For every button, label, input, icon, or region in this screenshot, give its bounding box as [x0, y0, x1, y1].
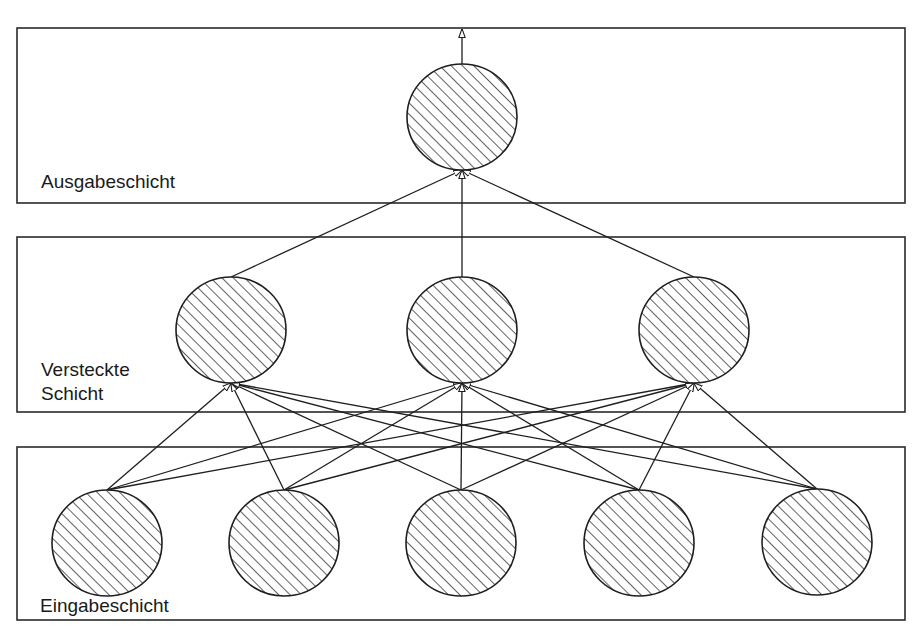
input-neuron-1 — [52, 490, 162, 596]
input-neuron-4 — [584, 490, 694, 596]
connection-arrow — [462, 383, 817, 489]
label-line: Ausgabeschicht — [41, 170, 175, 194]
label-line: Eingabeschicht — [40, 594, 169, 618]
neural-network-diagram — [0, 0, 923, 631]
output-neuron-1 — [407, 64, 517, 170]
input-neuron-2 — [229, 490, 339, 596]
input-neuron-3 — [406, 490, 516, 596]
connection-arrow — [107, 383, 462, 490]
connection-arrow — [694, 383, 817, 489]
neurons — [52, 64, 872, 596]
label-line: Versteckte — [41, 358, 130, 382]
connection-arrow — [231, 383, 284, 490]
hidden-neuron-1 — [176, 277, 286, 383]
input-layer-label: Eingabeschicht — [40, 594, 169, 618]
connection-arrow — [231, 383, 817, 489]
connection-arrow — [231, 170, 462, 277]
input-neuron-5 — [762, 489, 872, 595]
connection-arrow — [461, 383, 462, 490]
hidden-neuron-3 — [639, 277, 749, 383]
hidden-layer-label: VersteckteSchicht — [41, 358, 130, 406]
hidden-neuron-2 — [407, 277, 517, 383]
connection-arrow — [639, 383, 694, 490]
output-layer-label: Ausgabeschicht — [41, 170, 175, 194]
connection-arrow — [107, 383, 694, 490]
label-line: Schicht — [41, 382, 130, 406]
connection-arrow — [462, 170, 694, 277]
